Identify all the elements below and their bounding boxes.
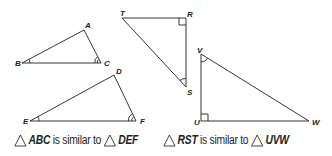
vertex-label-a: A bbox=[84, 21, 91, 30]
vertex-label-w: W bbox=[312, 118, 321, 127]
vertex-label-d: D bbox=[116, 67, 122, 76]
angle-e-arc bbox=[38, 117, 39, 121]
angle-c-arc-1 bbox=[95, 57, 97, 63]
triangle-icon bbox=[14, 134, 27, 147]
vertex-label-f: F bbox=[140, 117, 146, 126]
vertex-label-s: S bbox=[187, 88, 193, 97]
triangle-uvw bbox=[201, 54, 309, 121]
triangle-icon bbox=[104, 134, 117, 147]
angle-b-arc bbox=[29, 59, 30, 63]
triangle-icon bbox=[251, 134, 264, 147]
vertex-label-v: V bbox=[197, 46, 203, 55]
triangle-name-def: DEF bbox=[118, 133, 138, 147]
angle-u-right-mark bbox=[201, 114, 208, 121]
vertex-label-b: B bbox=[15, 59, 21, 68]
vertex-label-e: E bbox=[23, 117, 29, 126]
angle-f-arc-2 bbox=[131, 117, 133, 121]
triangle-abc bbox=[22, 30, 101, 63]
triangle-rst bbox=[122, 18, 186, 87]
angle-s-arc bbox=[180, 78, 186, 80]
vertex-label-c: C bbox=[104, 59, 110, 68]
angle-r-right-mark bbox=[179, 18, 186, 25]
triangle-icon bbox=[163, 134, 176, 147]
caption-rst-uvw: RST is similar to UVW bbox=[163, 133, 291, 147]
triangle-name-abc: ABC bbox=[29, 133, 51, 147]
angle-c-arc-2 bbox=[97, 60, 98, 64]
caption-abc-def: ABC is similar to DEF bbox=[14, 133, 141, 147]
vertex-label-t: T bbox=[120, 9, 126, 18]
similarity-connector: is similar to bbox=[200, 133, 248, 147]
triangle-def bbox=[30, 75, 136, 121]
triangle-name-uvw: UVW bbox=[266, 133, 289, 147]
vertex-label-u: U bbox=[194, 118, 200, 127]
vertex-label-r: R bbox=[187, 10, 193, 19]
similarity-connector: is similar to bbox=[53, 133, 101, 147]
triangle-name-rst: RST bbox=[178, 133, 198, 147]
angle-v-arc bbox=[201, 58, 208, 62]
